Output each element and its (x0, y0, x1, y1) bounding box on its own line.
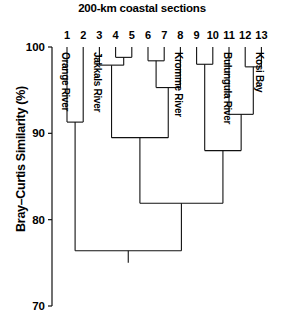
leaf-number-5: 5 (129, 29, 135, 41)
leaf-number-6: 6 (145, 29, 151, 41)
leaf-name-labels: Orange RiverJakkals RiverKromme RiverBul… (60, 52, 265, 125)
leaf-number-3: 3 (96, 29, 102, 41)
dendrogram-figure: 200-km coastal sections Bray–Curtis Simi… (0, 0, 284, 326)
leaf-number-11: 11 (223, 29, 235, 41)
y-axis: 100908070 (26, 41, 52, 312)
leaf-number-4: 4 (113, 29, 120, 41)
y-axis-tick-label: 100 (26, 41, 45, 53)
y-axis-tick-label: 90 (32, 127, 45, 139)
leaf-number-2: 2 (80, 29, 86, 41)
y-axis-tick-label: 70 (32, 300, 45, 312)
leaf-name-label: Bulungula River (222, 52, 233, 125)
leaf-number-labels: 12345678910111213 (64, 29, 268, 41)
y-axis-tick-label: 80 (32, 214, 45, 226)
dendrogram-plot: 100908070 12345678910111213 Orange River… (0, 0, 284, 326)
leaf-number-9: 9 (194, 29, 200, 41)
leaf-name-label: Kosi Bay (254, 52, 265, 93)
leaf-name-label: Jakkals River (92, 52, 103, 112)
leaf-number-12: 12 (239, 29, 251, 41)
leaf-name-label: Kromme River (173, 52, 184, 117)
leaf-number-8: 8 (177, 29, 183, 41)
leaf-number-10: 10 (207, 29, 219, 41)
leaf-number-7: 7 (161, 29, 167, 41)
leaf-name-label: Orange River (60, 52, 71, 112)
leaf-number-13: 13 (255, 29, 267, 41)
leaf-number-1: 1 (64, 29, 70, 41)
